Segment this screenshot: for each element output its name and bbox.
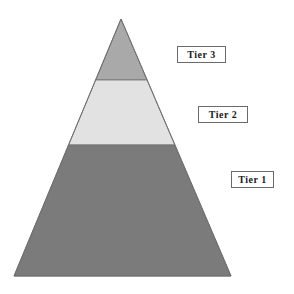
tier-3-segment: [96, 19, 148, 80]
tier-2-label: Tier 2: [198, 106, 248, 123]
tier-1-segment: [14, 145, 231, 276]
tier-1-label: Tier 1: [231, 171, 274, 188]
tier-3-label: Tier 3: [177, 46, 226, 63]
tier-2-segment: [69, 80, 175, 145]
pyramid-diagram: [0, 0, 294, 294]
